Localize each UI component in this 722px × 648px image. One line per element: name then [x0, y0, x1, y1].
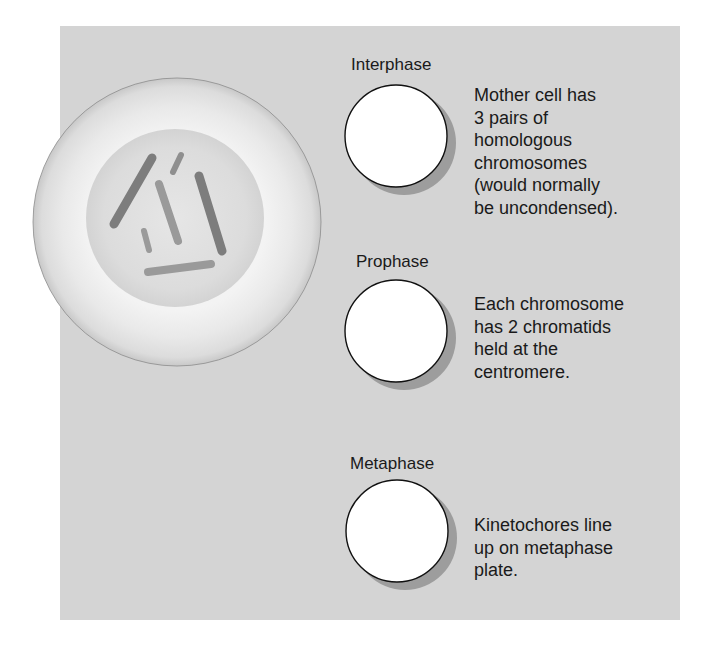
phase-label-metaphase: Metaphase [350, 454, 434, 474]
mother-cell [33, 78, 321, 366]
interphase-circle [345, 85, 456, 195]
empty-circle [345, 280, 447, 382]
prophase-circle [345, 280, 456, 390]
phase-description-prophase: Each chromosome has 2 chromatids held at… [474, 293, 674, 383]
phase-description-metaphase: Kinetochores line up on metaphase plate. [474, 514, 674, 582]
phase-description-interphase: Mother cell has 3 pairs of homologous ch… [474, 84, 674, 219]
metaphase-circle [346, 480, 457, 590]
empty-circle [345, 85, 447, 187]
empty-circle [346, 480, 448, 582]
phase-label-interphase: Interphase [351, 55, 431, 75]
phase-label-prophase: Prophase [356, 252, 429, 272]
